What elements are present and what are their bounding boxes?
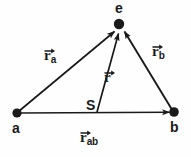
vector-line-r-b bbox=[125, 32, 173, 111]
vector-label-subscript: a bbox=[51, 54, 56, 65]
vertex-dot-a bbox=[12, 108, 21, 117]
vector-label-base: r bbox=[104, 70, 111, 85]
vector-label-r-b: r b bbox=[152, 44, 164, 59]
vector-label-subscript: ab bbox=[87, 136, 98, 147]
vector-label-r: r bbox=[104, 70, 111, 85]
vector-label-r-ab: r ab bbox=[80, 130, 98, 145]
vector-label-r-a: r a bbox=[44, 48, 56, 63]
vector-label-r-ab-stack: r bbox=[80, 130, 87, 145]
vertex-dot-b bbox=[169, 107, 179, 117]
point-label-e: e bbox=[115, 1, 123, 15]
vector-label-base: r bbox=[44, 48, 51, 63]
vector-label-r-a-stack: r bbox=[44, 48, 51, 63]
point-label-s: S bbox=[86, 98, 95, 112]
vector-label-subscript: b bbox=[159, 50, 165, 61]
vector-label-base: r bbox=[80, 130, 87, 145]
point-label-a: a bbox=[12, 121, 20, 135]
vector-label-r-stack: r bbox=[104, 70, 111, 85]
vector-diagram-figure: a b e S r a r b r bbox=[0, 0, 191, 157]
point-label-b: b bbox=[170, 120, 179, 134]
vertex-dot-e bbox=[114, 19, 124, 29]
vector-label-base: r bbox=[152, 44, 159, 59]
vector-label-r-b-stack: r bbox=[152, 44, 159, 59]
